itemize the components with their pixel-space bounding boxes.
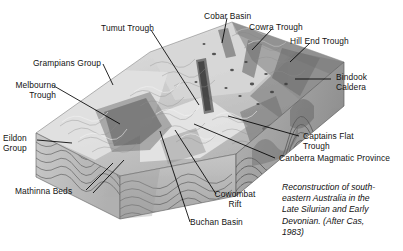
label-hill-end-trough: Hill End Trough bbox=[290, 36, 349, 46]
label-captains-flat-trough: Captains Flat Trough bbox=[303, 131, 354, 151]
label-grampians-group: Grampians Group bbox=[33, 58, 101, 68]
label-tumut-trough: Tumut Trough bbox=[101, 23, 154, 33]
label-eildon-group: Eildon Group bbox=[3, 133, 27, 153]
label-canberra-magmatic-province: Canberra Magmatic Province bbox=[279, 153, 390, 163]
label-bindook-caldera: Bindook Caldera bbox=[336, 72, 367, 92]
label-buchan-basin: Buchan Basin bbox=[190, 217, 243, 227]
label-cowra-trough: Cowra Trough bbox=[249, 22, 303, 32]
label-cobar-basin: Cobar Basin bbox=[204, 11, 251, 21]
block-diagram-figure: Tumut Trough Cobar Basin Cowra Trough Hi… bbox=[0, 0, 403, 251]
figure-caption: Reconstruction of south- eastern Austral… bbox=[282, 182, 400, 238]
label-cowombat-rift: Cowombat Rift bbox=[204, 189, 266, 209]
label-mathinna-beds: Mathinna Beds bbox=[15, 186, 72, 196]
label-melbourne-trough: Melbourne Trough bbox=[0, 80, 56, 100]
